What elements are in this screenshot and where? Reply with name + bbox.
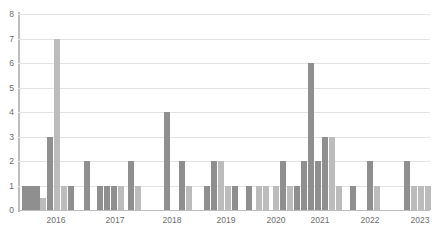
x-tick-label: 2016 (36, 216, 76, 225)
bar[interactable] (111, 186, 117, 211)
x-tick-label: 2022 (350, 216, 390, 225)
bar[interactable] (287, 186, 293, 211)
y-tick-label: 3 (0, 133, 14, 142)
bar[interactable] (84, 161, 90, 210)
bar[interactable] (218, 161, 224, 210)
bar[interactable] (232, 186, 238, 211)
x-axis-line (18, 210, 430, 211)
bar[interactable] (97, 186, 103, 211)
bar[interactable] (104, 186, 110, 211)
x-tick-label: 2021 (300, 216, 340, 225)
bar[interactable] (135, 186, 141, 211)
bar[interactable] (322, 137, 328, 211)
bar[interactable] (301, 161, 307, 210)
bar[interactable] (350, 186, 356, 211)
y-tick-label: 6 (0, 59, 14, 68)
bar[interactable] (186, 186, 192, 211)
bar[interactable] (425, 186, 431, 211)
y-tick-label: 0 (0, 206, 14, 215)
y-tick-label: 8 (0, 10, 14, 19)
bar[interactable] (40, 198, 46, 210)
bar[interactable] (308, 63, 314, 210)
y-tick-label: 5 (0, 84, 14, 93)
x-tick-label: 2023 (400, 216, 435, 225)
y-tick-label: 4 (0, 108, 14, 117)
x-tick-label: 2018 (152, 216, 192, 225)
bar[interactable] (418, 186, 424, 211)
bar[interactable] (68, 186, 74, 211)
bar[interactable] (294, 186, 300, 211)
bar[interactable] (47, 137, 53, 211)
x-tick-label: 2019 (206, 216, 246, 225)
bar[interactable] (225, 186, 231, 211)
bar[interactable] (280, 161, 286, 210)
bar[interactable] (204, 186, 210, 211)
bar[interactable] (263, 186, 269, 211)
bar[interactable] (273, 186, 279, 211)
bar[interactable] (118, 186, 124, 211)
bar-series (18, 14, 430, 210)
bar[interactable] (211, 161, 217, 210)
y-tick-label: 1 (0, 182, 14, 191)
bar[interactable] (329, 137, 335, 211)
bar[interactable] (336, 186, 342, 211)
bar[interactable] (256, 186, 262, 211)
bar[interactable] (128, 161, 134, 210)
y-tick-label: 2 (0, 157, 14, 166)
bar[interactable] (164, 112, 170, 210)
bar[interactable] (179, 161, 185, 210)
bar[interactable] (54, 39, 60, 211)
y-tick-label: 7 (0, 35, 14, 44)
bar[interactable] (367, 161, 373, 210)
bar[interactable] (374, 186, 380, 211)
bar[interactable] (246, 186, 252, 211)
x-tick-label: 2020 (256, 216, 296, 225)
bar[interactable] (315, 161, 321, 210)
bar[interactable] (411, 186, 417, 211)
bar[interactable] (404, 161, 410, 210)
bar-chart: 012345678 201620172018201920202021202220… (0, 0, 435, 240)
x-tick-label: 2017 (95, 216, 135, 225)
bar[interactable] (61, 186, 67, 211)
